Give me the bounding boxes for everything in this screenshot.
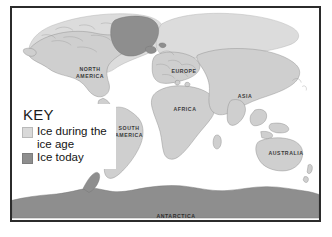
ice-age-swatch-icon [22,127,33,138]
legend-title: KEY [23,106,114,123]
legend-label-ice-today: Ice today [37,151,84,164]
legend-item-ice-today: Ice today [22,151,114,164]
map-figure: .land { fill:#cfcfcf; stroke:#8a8a8a; st… [0,0,332,237]
map-frame: .land { fill:#cfcfcf; stroke:#8a8a8a; st… [10,6,321,222]
madagascar [213,135,221,149]
legend-item-ice-age: Ice during the ice age [22,125,114,150]
ice-today-swatch-icon [22,153,33,164]
legend-label-ice-age: Ice during the ice age [37,125,114,150]
map-legend: KEY Ice during the ice age Ice today [18,104,116,169]
